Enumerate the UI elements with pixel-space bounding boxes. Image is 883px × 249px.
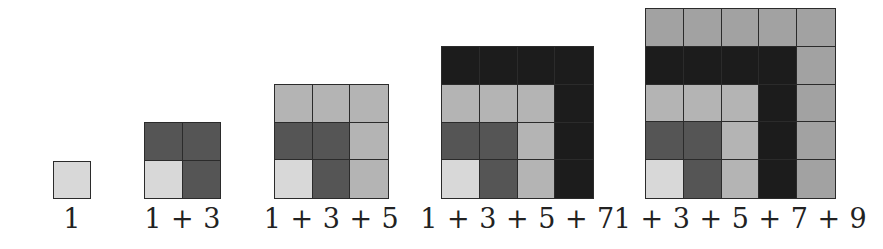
square-4x4 [441,46,594,199]
cell-layer-l2 [442,123,480,161]
cell-layer-l4 [722,47,760,85]
cell-layer-l3 [518,85,556,123]
cell-layer-l4 [759,85,797,123]
cell-layer-l2 [480,160,518,198]
cell-layer-l3 [313,85,351,123]
cell-layer-l5 [684,9,722,47]
square-1x1 [53,161,91,199]
square-3x3 [274,84,389,199]
sum-label: 1 + 3 + 5 [264,203,400,234]
cell-layer-l4 [759,160,797,198]
cell-layer-l3 [480,85,518,123]
cell-layer-l2 [684,122,722,160]
cell-layer-l5 [759,9,797,47]
cell-layer-l1 [275,160,313,198]
cell-layer-l4 [759,47,797,85]
cell-layer-l5 [797,85,835,123]
cell-layer-l2 [275,123,313,161]
cell-layer-l1 [646,160,684,198]
cell-layer-l3 [275,85,313,123]
cell-layer-l4 [555,47,593,85]
cell-layer-l5 [797,160,835,198]
cell-layer-l2 [145,123,183,161]
cell-layer-l4 [555,123,593,161]
cell-layer-l3 [518,123,556,161]
cell-layer-l3 [722,85,760,123]
cell-layer-l4 [480,47,518,85]
cell-layer-l4 [555,85,593,123]
cell-layer-l3 [350,160,388,198]
cell-layer-l2 [646,122,684,160]
square-2x2 [144,122,221,199]
cell-layer-l4 [555,160,593,198]
cell-layer-l3 [722,160,760,198]
cell-layer-l5 [797,9,835,47]
sum-label: 1 [63,203,81,234]
cell-layer-l2 [313,123,351,161]
cell-layer-l5 [722,9,760,47]
cell-layer-l4 [518,47,556,85]
cell-layer-l3 [684,85,722,123]
cell-layer-l3 [646,85,684,123]
cell-layer-l3 [350,123,388,161]
cell-layer-l3 [722,122,760,160]
cell-layer-l4 [646,47,684,85]
cell-layer-l5 [646,9,684,47]
sum-label: 1 + 3 + 5 + 7 + 9 [614,203,868,234]
cell-layer-l1 [145,161,183,199]
cell-layer-l2 [313,160,351,198]
cell-layer-l2 [183,161,221,199]
cell-layer-l4 [684,47,722,85]
cell-layer-l5 [797,122,835,160]
cell-layer-l1 [442,160,480,198]
cell-layer-l3 [518,160,556,198]
cell-layer-l2 [480,123,518,161]
cell-layer-l2 [183,123,221,161]
cell-layer-l2 [684,160,722,198]
cell-layer-l4 [442,47,480,85]
cell-layer-l3 [442,85,480,123]
sum-label: 1 + 3 + 5 + 7 [420,203,615,234]
cell-layer-l4 [759,122,797,160]
cell-layer-l5 [797,47,835,85]
cell-layer-l3 [350,85,388,123]
square-5x5 [645,8,836,199]
cell-layer-l1 [54,162,90,198]
sum-label: 1 + 3 [144,203,221,234]
